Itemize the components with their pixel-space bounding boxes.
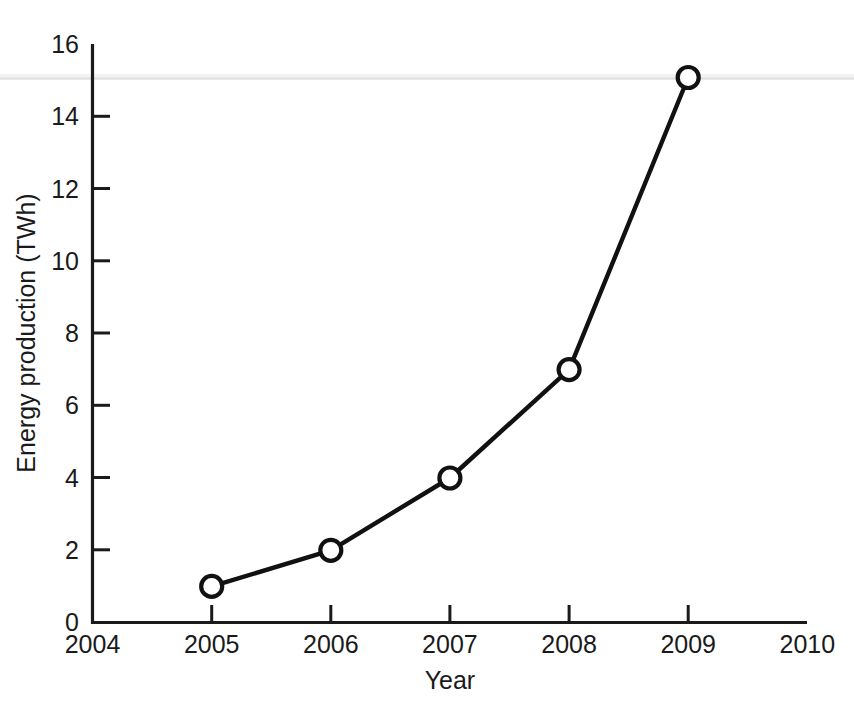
x-tick-label-2007: 2007 [422,630,478,658]
y-tick-label-12: 12 [51,175,79,203]
data-point-2006[interactable] [320,540,341,561]
y-tick-label-2: 2 [65,536,79,564]
data-point-2009[interactable] [678,67,699,88]
data-point-2008[interactable] [559,359,580,380]
x-axis-title: Year [425,666,476,694]
x-tick-label-2006: 2006 [303,630,359,658]
x-tick-label-2005: 2005 [184,630,240,658]
x-tick-label-2010: 2010 [779,630,835,658]
y-tick-label-4: 4 [65,464,79,492]
data-point-2007[interactable] [439,468,460,489]
y-tick-label-16: 16 [51,30,79,58]
x-tick-label-2009: 2009 [660,630,716,658]
line-chart: 16 14 12 10 8 6 4 2 0 2004 2005 2006 200… [0,0,854,712]
y-tick-label-14: 14 [51,102,79,130]
y-tick-label-6: 6 [65,391,79,419]
y-axis-title: Energy production (TWh) [12,193,40,472]
data-point-2005[interactable] [201,576,222,597]
chart-figure: 16 14 12 10 8 6 4 2 0 2004 2005 2006 200… [0,0,854,712]
y-tick-label-10: 10 [51,247,79,275]
x-tick-label-2008: 2008 [541,630,597,658]
y-tick-label-8: 8 [65,319,79,347]
x-tick-label-2004: 2004 [65,630,121,658]
chart-background [0,0,854,712]
